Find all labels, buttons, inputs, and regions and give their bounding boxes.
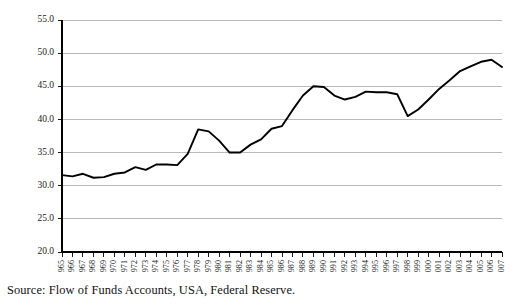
y-axis-tick-label: 45.0 (37, 80, 54, 90)
x-axis-tick-label: 2001 (434, 260, 443, 272)
x-axis-tick-label: 1975 (162, 260, 171, 272)
x-axis-tick-label: 1973 (141, 260, 150, 272)
x-axis-tick-label: 1997 (392, 260, 401, 272)
x-axis-tick-label: 2004 (465, 260, 474, 272)
x-axis-tick-label: 1992 (340, 260, 349, 272)
x-axis-tick-label: 1983 (245, 260, 254, 272)
x-axis-tick-label: 2005 (476, 260, 485, 272)
x-axis-tick-label: 1988 (298, 260, 307, 272)
y-axis-tick-label: 35.0 (37, 147, 54, 157)
x-axis-tick-label: 2007 (497, 260, 506, 272)
x-axis-tick-label: 1970 (109, 260, 118, 272)
x-axis-tick-label: 1965 (57, 260, 66, 272)
chart-page: 20.025.030.035.040.045.050.055.0 1965196… (0, 0, 519, 306)
x-axis-tick-label: 2000 (424, 260, 433, 272)
x-axis-tick-label: 1977 (183, 260, 192, 272)
x-axis-tick-label: 1969 (99, 260, 108, 272)
x-axis-tick-label: 1981 (224, 260, 233, 272)
x-axis-tick-label: 1995 (371, 260, 380, 272)
x-axis-tick-label: 1974 (151, 260, 160, 272)
y-axis-tick-label: 20.0 (37, 246, 54, 256)
x-axis-tick-label: 1966 (67, 260, 76, 272)
x-axis-tick-label: 1976 (172, 260, 181, 272)
x-axis-tick-label: 1979 (204, 260, 213, 272)
chart-svg: 20.025.030.035.040.045.050.055.0 1965196… (0, 0, 519, 272)
x-axis-tick-label: 1996 (382, 260, 391, 272)
source-note: Source: Flow of Funds Accounts, USA, Fed… (7, 283, 295, 298)
x-axis-tick-label: 1984 (256, 260, 265, 272)
x-axis-tick-label: 1998 (403, 260, 412, 272)
x-axis-tick-label: 2003 (455, 260, 464, 272)
x-axis-tick-label: 1985 (266, 260, 275, 272)
line-chart-figure: 20.025.030.035.040.045.050.055.0 1965196… (0, 0, 519, 272)
x-axis-tick-label: 2006 (486, 260, 495, 272)
y-axis-tick-label: 40.0 (37, 114, 54, 124)
x-axis-tick-label: 1993 (350, 260, 359, 272)
x-axis-tick-label: 1967 (78, 260, 87, 272)
x-axis-tick-labels: 1965196619671968196919701971197219731974… (57, 260, 506, 272)
x-axis-tick-label: 1999 (413, 260, 422, 272)
y-axis-tick-label: 25.0 (37, 213, 54, 223)
y-axis-tick-label: 30.0 (37, 180, 54, 190)
x-axis-tick-label: 1990 (319, 260, 328, 272)
x-axis-tick-label: 1986 (277, 260, 286, 272)
x-axis-tick-label: 1980 (214, 260, 223, 272)
x-axis-tick-label: 1989 (308, 260, 317, 272)
x-axis-tick-marks (62, 252, 502, 257)
x-axis-tick-label: 1971 (120, 260, 129, 272)
x-axis-tick-label: 1972 (130, 260, 139, 272)
data-series-line (62, 60, 502, 178)
x-axis-tick-label: 1978 (193, 260, 202, 272)
gridlines-group (58, 20, 502, 252)
x-axis-tick-label: 1987 (287, 260, 296, 272)
x-axis-tick-label: 1991 (329, 260, 338, 272)
x-axis-tick-label: 1968 (88, 260, 97, 272)
y-axis-tick-label: 50.0 (37, 47, 54, 57)
x-axis-tick-label: 2002 (444, 260, 453, 272)
y-axis-tick-label: 55.0 (37, 14, 54, 24)
x-axis-tick-label: 1982 (235, 260, 244, 272)
x-axis-tick-label: 1994 (361, 260, 370, 272)
y-axis-tick-labels: 20.025.030.035.040.045.050.055.0 (37, 14, 54, 256)
